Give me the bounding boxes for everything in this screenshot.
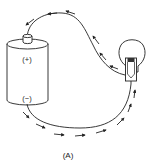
positive-label: (+) [22,55,32,64]
figure-label: (A) [63,151,74,160]
circuit-diagram: (+) (−) (A) [0,0,153,168]
light-bulb [119,40,145,84]
negative-label: (−) [22,94,32,103]
bulb-filament [128,58,135,62]
